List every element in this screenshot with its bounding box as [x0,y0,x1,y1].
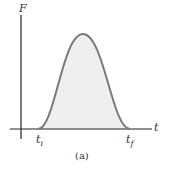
y-axis-label: F [19,2,27,15]
area-under-curve [38,34,130,129]
x-axis-label: t [154,121,158,134]
t-final-sub: f [130,139,133,148]
t-initial-label: ti [36,133,43,148]
t-final-label: tf [126,133,133,148]
t-initial-sub: i [40,139,43,148]
figure-caption: (a) [75,150,89,161]
impulse-diagram [0,0,169,173]
